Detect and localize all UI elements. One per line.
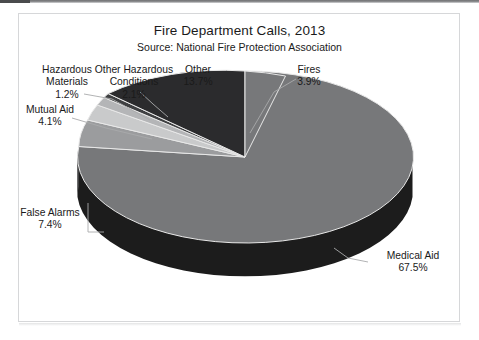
pie-label-other-hazardous-conditions-value: 2.1% [88,89,180,101]
pie-label-other: Other 13.7% [168,64,228,89]
pie-label-fires-line1: Fires [298,64,321,75]
pie-label-other-hazardous-conditions: Other Hazardous Conditions 2.1% [88,64,180,101]
pie-label-other-hazardous-conditions-line1: Other Hazardous [95,64,173,75]
pie-chart [0,0,479,340]
pie-label-fires: Fires 3.9% [280,64,338,89]
pie-label-mutual-aid-line1: Mutual Aid [26,104,74,115]
pie-label-other-line1: Other [185,64,211,75]
pie-label-medical-aid-line1: Medical Aid [387,250,440,261]
pie-label-false-alarms-value: 7.4% [8,219,92,231]
pie-label-other-value: 13.7% [168,76,228,88]
pie-label-other-hazardous-conditions-line2: Conditions [110,76,159,87]
pie-label-hazardous-materials-line2: Materials [46,76,88,87]
pie-label-medical-aid-value: 67.5% [368,262,458,274]
pie-label-mutual-aid-value: 4.1% [8,116,92,128]
pie-label-medical-aid: Medical Aid 67.5% [368,250,458,275]
pie-label-false-alarms-line1: False Alarms [20,207,80,218]
pie-label-fires-value: 3.9% [280,76,338,88]
pie-label-hazardous-materials-line1: Hazardous [42,64,92,75]
pie-label-mutual-aid: Mutual Aid 4.1% [8,104,92,129]
pie-label-false-alarms: False Alarms 7.4% [8,207,92,232]
